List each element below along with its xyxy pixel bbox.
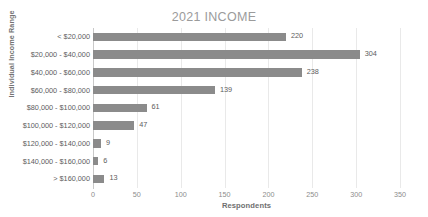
bar-row[interactable]: 9 <box>93 135 400 153</box>
bar[interactable] <box>93 86 215 94</box>
bar-row[interactable]: 61 <box>93 99 400 117</box>
bar-chart: 2021 INCOME Individual Income Range 2203… <box>0 0 428 217</box>
bar[interactable] <box>93 68 302 76</box>
chart-title: 2021 INCOME <box>0 10 428 24</box>
bar[interactable] <box>93 104 147 112</box>
bar[interactable] <box>93 157 98 165</box>
bar-row[interactable]: 47 <box>93 117 400 135</box>
bar-row[interactable]: 220 <box>93 28 400 46</box>
bar-row[interactable]: 238 <box>93 64 400 82</box>
bar-row[interactable]: 13 <box>93 170 400 188</box>
x-tick-label: 350 <box>385 190 415 199</box>
bar-row[interactable]: 139 <box>93 81 400 99</box>
bar-value-label: 238 <box>307 67 319 76</box>
category-label: < $20,000 <box>0 32 90 41</box>
bar[interactable] <box>93 175 104 183</box>
category-label: $80,000 - $100,000 <box>0 103 90 112</box>
bar-row[interactable]: 6 <box>93 152 400 170</box>
bar-value-label: 61 <box>152 102 160 111</box>
x-tick-label: 50 <box>122 190 152 199</box>
y-axis-title: Individual Income Range <box>7 0 19 119</box>
category-label: $120,000 - $140,000 <box>0 139 90 148</box>
bar-value-label: 304 <box>365 49 377 58</box>
x-axis-title: Respondents <box>93 201 400 210</box>
bar-row[interactable]: 304 <box>93 46 400 64</box>
bar[interactable] <box>93 121 134 129</box>
bar[interactable] <box>93 33 286 41</box>
bar-value-label: 13 <box>109 173 117 182</box>
bar-value-label: 9 <box>106 138 110 147</box>
bar-value-label: 6 <box>103 156 107 165</box>
bar-value-label: 139 <box>220 85 232 94</box>
bar-value-label: 47 <box>139 120 147 129</box>
bar-value-label: 220 <box>291 31 303 40</box>
category-label: $140,000 - $160,000 <box>0 157 90 166</box>
gridline <box>400 28 401 188</box>
category-label: > $160,000 <box>0 174 90 183</box>
x-tick-label: 0 <box>78 190 108 199</box>
bar[interactable] <box>93 139 101 147</box>
x-tick-label: 150 <box>210 190 240 199</box>
category-label: $20,000 - $40,000 <box>0 50 90 59</box>
x-tick-label: 200 <box>253 190 283 199</box>
plot-area: 22030423813961479613 <box>93 28 400 188</box>
x-tick-label: 250 <box>297 190 327 199</box>
x-tick-label: 300 <box>341 190 371 199</box>
category-label: $40,000 - $60,000 <box>0 68 90 77</box>
category-label: $100,000 - $120,000 <box>0 121 90 130</box>
x-tick-label: 100 <box>166 190 196 199</box>
category-label: $60,000 - $80,000 <box>0 86 90 95</box>
bar[interactable] <box>93 50 360 58</box>
